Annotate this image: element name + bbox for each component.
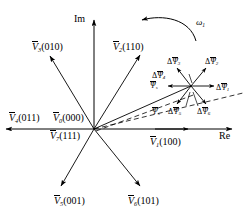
increment-d2 <box>191 68 206 86</box>
v6-states: (101) <box>137 195 159 206</box>
vector-label-v6: V6(101) <box>128 196 159 206</box>
psi-s-symbol-upper: Ψ <box>150 82 156 90</box>
v1-states: (100) <box>159 136 181 147</box>
d3-subscript: 3 <box>178 61 180 66</box>
increment-d6 <box>191 86 206 104</box>
d2-psi: Ψ <box>210 58 216 66</box>
increment-leader-1 <box>189 74 192 83</box>
d4-subscript: 4 <box>163 75 165 80</box>
v5-states: (001) <box>63 195 85 206</box>
d5-psi: Ψ <box>173 108 179 116</box>
psi-s-subscript-lower: s <box>158 111 160 116</box>
increment-label-d4: ΔΨ4 <box>152 72 165 80</box>
vector-label-v3: V3(010) <box>32 42 63 52</box>
increment-label-d1: ΔΨ1 <box>216 84 229 92</box>
increment-leader-2 <box>186 92 190 106</box>
v7-subscript: 7 <box>56 135 59 142</box>
d4-psi: Ψ <box>157 72 163 80</box>
v0-states: (000) <box>62 112 84 123</box>
omega-subscript: 1 <box>202 22 205 28</box>
d6-psi: Ψ <box>202 108 208 116</box>
space-vector-diagram: Im Re ω1 V3(010) V2(110) V4(011) V0(000)… <box>0 0 249 221</box>
vector-v6 <box>94 129 140 186</box>
diagram-canvas <box>0 0 249 221</box>
v4-states: (011) <box>18 112 39 123</box>
psi-s-symbol-lower: Ψ <box>152 108 158 116</box>
d1-psi: Ψ <box>221 84 227 92</box>
v2-subscript: 2 <box>119 46 122 53</box>
d5-subscript: 5 <box>179 111 181 116</box>
vector-label-v2: V2(110) <box>113 42 144 52</box>
vector-label-v0: V0(000) <box>53 113 84 123</box>
d3-psi: Ψ <box>172 58 178 66</box>
v6-subscript: 6 <box>134 200 137 207</box>
v3-subscript: 3 <box>38 46 41 53</box>
increment-label-d3: ΔΨ3 <box>167 58 180 66</box>
flux-increment-group <box>168 68 214 106</box>
v0-subscript: 0 <box>59 117 62 124</box>
imaginary-axis-label: Im <box>74 14 85 24</box>
flux-label-psi-s-lower: Ψs <box>152 108 160 116</box>
d2-subscript: 2 <box>216 61 218 66</box>
vector-label-v7: V7(111) <box>50 131 80 141</box>
v2-states: (110) <box>122 41 143 52</box>
omega-label: ω1 <box>196 18 205 27</box>
vector-label-v4: V4(011) <box>9 113 40 123</box>
flux-label-psi-s-upper: Ψs <box>150 82 158 90</box>
d1-subscript: 1 <box>227 87 229 92</box>
v7-states: (111) <box>59 130 80 141</box>
vector-v2 <box>94 55 140 129</box>
vector-label-v5: V5(001) <box>54 196 85 206</box>
real-axis-label: Re <box>219 131 230 141</box>
v3-states: (010) <box>41 41 63 52</box>
increment-label-d6: ΔΨ6 <box>197 108 210 116</box>
increment-label-d2: ΔΨ2 <box>205 58 218 66</box>
increment-d3 <box>177 68 191 86</box>
vector-label-v1: V1(100) <box>150 137 181 147</box>
v4-subscript: 4 <box>15 117 18 124</box>
v5-subscript: 5 <box>60 200 63 207</box>
d6-subscript: 6 <box>208 111 210 116</box>
v1-subscript: 1 <box>156 141 159 148</box>
omega-rotation-arrow <box>142 18 196 41</box>
increment-label-d5: ΔΨ5 <box>168 108 181 116</box>
psi-s-subscript-upper: s <box>156 85 158 90</box>
